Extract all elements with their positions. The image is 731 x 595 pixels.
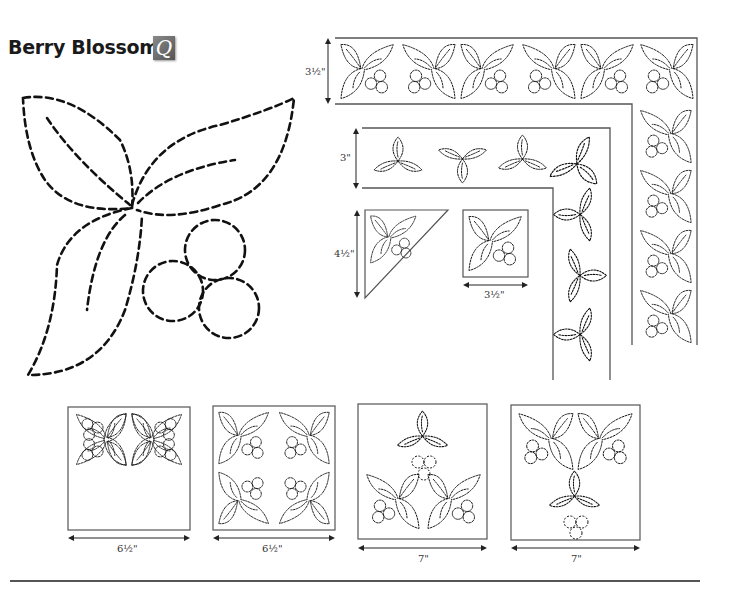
block-2-outward <box>213 406 335 541</box>
block-1-inward <box>68 407 190 541</box>
block-3-berries-center <box>358 404 487 551</box>
page-divider-rule <box>10 580 700 582</box>
block-4-berries-out <box>511 405 640 551</box>
pattern-artwork <box>0 0 731 595</box>
corner-triangle <box>354 210 448 298</box>
outer-border-dimension: 3½" <box>305 66 326 77</box>
small-block-dimension: 3½" <box>484 289 505 300</box>
small-block <box>463 210 528 288</box>
inner-border <box>353 128 616 380</box>
block-4-dimension: 7" <box>571 553 582 564</box>
large-motif <box>23 97 294 375</box>
block-1-dimension: 6½" <box>117 543 138 554</box>
triangle-dimension: 4½" <box>334 248 355 259</box>
block-2-dimension: 6½" <box>262 543 283 554</box>
outer-border <box>325 38 697 345</box>
inner-border-dimension: 3" <box>340 152 351 163</box>
block-3-dimension: 7" <box>418 553 429 564</box>
